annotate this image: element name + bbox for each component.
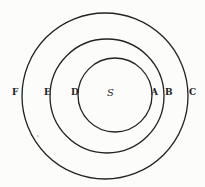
label-C: C [189, 87, 196, 97]
inner-circle [78, 58, 152, 132]
label-A: A [150, 87, 159, 97]
label-S: S [107, 87, 114, 98]
label-E: E [44, 87, 51, 97]
label-F: F [12, 87, 19, 97]
concentric-circles-diagram: F E D S A B C [0, 0, 205, 187]
label-B: B [165, 87, 173, 97]
speck-dot [37, 135, 38, 136]
diagram-svg: F E D S A B C [0, 0, 205, 187]
label-D: D [71, 87, 79, 97]
